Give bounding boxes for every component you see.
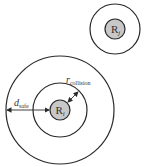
r-collision-label: rcollision: [66, 74, 91, 86]
diagram-canvas: Rj Ri rcollision dsafe: [0, 0, 145, 167]
d-safe-label: dsafe: [14, 97, 29, 109]
r-collision-arrow: [68, 92, 78, 102]
robot-i-group: Ri rcollision dsafe: [6, 56, 114, 164]
robot-j-group: Rj: [90, 4, 140, 54]
collision-diagram: Rj Ri rcollision dsafe: [0, 0, 145, 167]
